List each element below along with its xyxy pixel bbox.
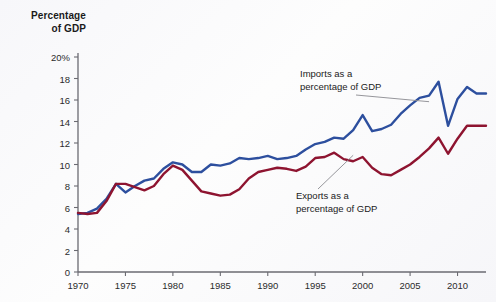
y-axis-tick-label: 14: [26, 116, 70, 127]
y-axis-tick-label: 6: [26, 202, 70, 213]
x-axis-tick-label: 1985: [210, 280, 231, 291]
x-axis-tick-label: 1980: [162, 280, 183, 291]
y-axis-tick-label: 16: [26, 95, 70, 106]
exports-annotation: Exports as apercentage of GDP: [296, 190, 377, 215]
exports-annotation-line1: Exports as a: [296, 190, 377, 203]
line-chart: [0, 0, 496, 302]
imports-annotation: Imports as apercentage of GDP: [300, 68, 381, 93]
y-axis-tick-label: 0: [26, 267, 70, 278]
y-axis-tick-label: 20%: [26, 52, 70, 63]
y-axis-tick-label: 12: [26, 138, 70, 149]
x-axis-tick-label: 1975: [115, 280, 136, 291]
imports-annotation-line1: Imports as a: [300, 68, 381, 81]
x-axis-tick-label: 2000: [352, 280, 373, 291]
exports-annotation-leader-line: [318, 155, 353, 189]
y-axis-tick-label: 10: [26, 159, 70, 170]
x-axis-tick-label: 1970: [67, 280, 88, 291]
x-axis-tick-label: 1995: [305, 280, 326, 291]
y-axis-tick-label: 18: [26, 73, 70, 84]
imports-annotation-line2: percentage of GDP: [300, 81, 381, 94]
y-axis-tick-label: 4: [26, 224, 70, 235]
y-axis-tick-label: 8: [26, 181, 70, 192]
x-axis-tick-label: 2010: [447, 280, 468, 291]
chart-page: Percentage of GDP 02468101214161820%1970…: [0, 0, 496, 302]
exports-annotation-line2: percentage of GDP: [296, 203, 377, 216]
series-line: [78, 126, 486, 214]
x-axis-tick-label: 1990: [257, 280, 278, 291]
y-axis-tick-label: 2: [26, 245, 70, 256]
x-axis-tick-label: 2005: [400, 280, 421, 291]
